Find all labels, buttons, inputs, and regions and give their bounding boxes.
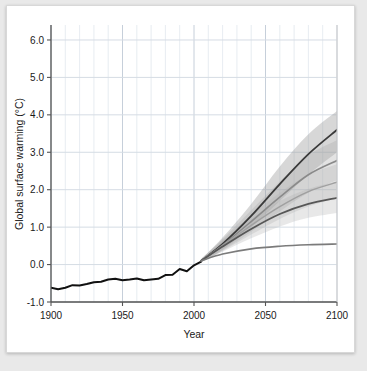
y-tick-label: 4.0 (30, 109, 44, 120)
x-tick-label: 1900 (40, 310, 63, 321)
x-tick-label: 2100 (326, 310, 349, 321)
climate-projection-chart: 6.05.04.03.02.01.00.0-1.0 19001950200020… (7, 6, 356, 354)
y-tick-label: 0.0 (30, 259, 44, 270)
x-tick-label: 2050 (254, 310, 277, 321)
y-axis-ticks: 6.05.04.03.02.01.00.0-1.0 (27, 35, 51, 308)
y-tick-label: 5.0 (30, 72, 44, 83)
chart-svg: 6.05.04.03.02.01.00.0-1.0 19001950200020… (7, 6, 356, 354)
y-tick-label: 6.0 (30, 35, 44, 46)
y-tick-label: 2.0 (30, 184, 44, 195)
x-axis-label: Year (183, 328, 205, 340)
x-tick-label: 2000 (183, 310, 206, 321)
y-tick-label: 3.0 (30, 147, 44, 158)
y-tick-label: 1.0 (30, 222, 44, 233)
y-tick-label: -1.0 (27, 297, 45, 308)
x-axis-ticks: 19001950200020502100 (40, 302, 349, 321)
figure-card: 6.05.04.03.02.01.00.0-1.0 19001950200020… (6, 5, 355, 353)
y-axis-label: Global surface warming (°C) (13, 98, 25, 230)
x-tick-label: 1950 (111, 310, 134, 321)
